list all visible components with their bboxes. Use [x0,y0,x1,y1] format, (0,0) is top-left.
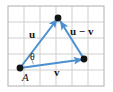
diagram-canvas [0,0,113,92]
angle-label-theta: θ [30,52,35,62]
vector-label-u: u [29,29,35,40]
point-label-A: A [22,72,29,83]
vector-diagram-figure: u v u − v θ A [0,0,113,92]
vector-label-u-minus-v: u − v [70,26,93,37]
point-right [81,56,88,63]
vector-label-v: v [54,67,60,78]
point-apex [55,15,62,22]
